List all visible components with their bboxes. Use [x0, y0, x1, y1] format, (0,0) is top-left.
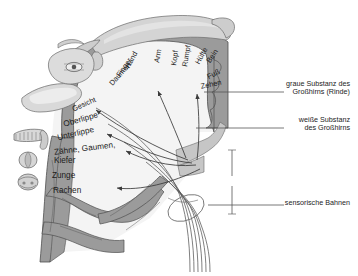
- pharynx-icon: [18, 174, 38, 190]
- diagram-artwork: [0, 0, 358, 276]
- label-sensory-tracts: sensorische Bahnen: [218, 199, 350, 207]
- label-gray-matter: graue Substanz des Großhirns (Rinde): [218, 80, 350, 96]
- label-sensory-tracts-line1: sensorische Bahnen: [285, 198, 350, 207]
- body-part-icons: [14, 129, 48, 190]
- diagram-canvas: graue Substanz des Großhirns (Rinde) wei…: [0, 0, 358, 276]
- cortex-label-zunge: Zunge: [52, 171, 75, 180]
- teeth-jaw-icon: [14, 129, 48, 149]
- tongue-icon: [19, 152, 37, 168]
- cortex-label-kiefer: Kiefer: [54, 156, 75, 165]
- cortex-label-rachen: Rachen: [53, 186, 81, 195]
- label-white-matter-line2: des Großhirns: [218, 124, 350, 132]
- label-gray-matter-line2: Großhirns (Rinde): [218, 88, 350, 96]
- label-white-matter: weiße Substanz des Großhirns: [218, 116, 350, 132]
